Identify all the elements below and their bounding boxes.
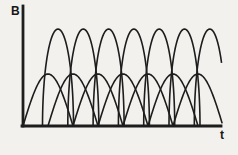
y-axis-label: B (11, 5, 20, 17)
curves-group (23, 29, 222, 126)
pulse-arc (144, 29, 175, 126)
pulse-arc (169, 29, 200, 126)
x-axis-label: t (220, 129, 224, 141)
tall-narrow-pulses (43, 29, 222, 126)
b-vs-t-pulse-figure: B t (0, 0, 238, 155)
pulse-arc (118, 29, 149, 126)
pulse-chart (0, 0, 238, 155)
pulse-arc (93, 29, 124, 126)
pulse-arc (173, 74, 222, 126)
pulse-arc (23, 74, 73, 126)
